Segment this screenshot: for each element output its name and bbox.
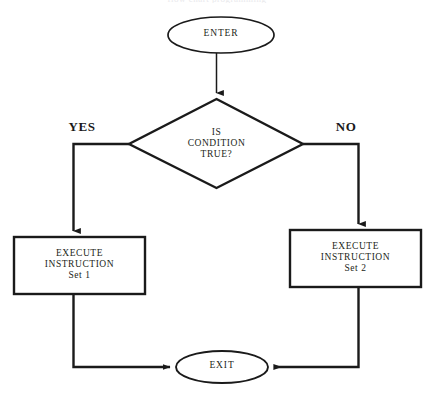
branch-label-no: NO	[315, 119, 377, 135]
execute-set2-node[interactable]	[290, 230, 421, 287]
connector-set2-to-exit	[274, 287, 359, 367]
flowchart-connectors	[0, 0, 434, 405]
flowchart-canvas: flow chart programming	[0, 0, 434, 405]
decision-node[interactable]	[129, 99, 304, 189]
exit-node[interactable]	[176, 351, 268, 383]
branch-label-yes: YES	[48, 119, 116, 135]
connector-yes-branch	[74, 144, 130, 231]
connector-no-branch	[303, 144, 359, 224]
connector-set1-to-exit	[74, 294, 171, 367]
enter-node[interactable]	[168, 17, 274, 53]
execute-set1-node[interactable]	[14, 237, 145, 294]
